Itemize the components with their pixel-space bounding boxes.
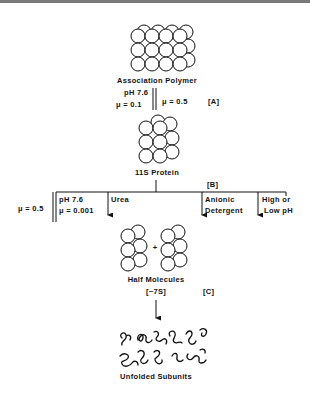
branch-connector — [53, 180, 286, 222]
stage-half-molecules-sublabel: [~7S] — [146, 287, 166, 296]
branch-highlow-line1: High or — [262, 195, 290, 204]
reverse-condition-label: μ = 0.5 — [18, 204, 44, 213]
branch-anionic-line2: Detergent — [205, 206, 243, 215]
branch-urea-label: Urea — [111, 195, 129, 204]
stage-association-polymer-label: Association Polymer — [117, 76, 197, 85]
plus-sign: + — [153, 243, 158, 252]
stage-11s-protein-label: 11S Protein — [135, 168, 179, 177]
association-polymer-icon — [131, 25, 195, 71]
unfolded-subunits-icon — [120, 329, 207, 366]
half-molecule-left-icon — [121, 225, 147, 271]
branch-highlow-line2: Low pH — [264, 206, 293, 215]
transition-a-left-line2: μ = 0.1 — [116, 100, 142, 109]
transition-a-right: μ = 0.5 — [162, 97, 188, 106]
transition-a-left-line1: pH 7.6 — [124, 88, 148, 97]
branch-ph-line1: pH 7.6 — [59, 195, 83, 204]
tag-c: [C] — [203, 287, 214, 296]
stage-unfolded-subunits-label: Unfolded Subunits — [120, 372, 192, 381]
branch-anionic-line1: Anionic — [205, 195, 235, 204]
branch-ph-line2: μ = 0.001 — [59, 206, 94, 215]
tag-a: [A] — [208, 97, 219, 106]
reversible-arrow-a — [153, 88, 156, 110]
stage-half-molecules-label: Half Molecules — [128, 275, 185, 284]
protein-11s-icon — [139, 115, 179, 163]
tag-b: [B] — [207, 180, 218, 189]
half-molecule-right-icon — [161, 225, 187, 271]
